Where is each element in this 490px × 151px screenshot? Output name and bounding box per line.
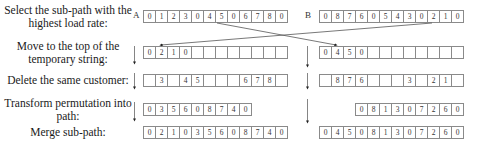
crossover-line-b (161, 23, 432, 45)
crossover-line-a (217, 23, 336, 45)
connector-lines (0, 0, 490, 151)
